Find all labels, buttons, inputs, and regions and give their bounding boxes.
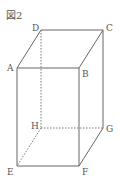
vertex-label-a: A xyxy=(6,63,14,73)
vertex-label-d: D xyxy=(32,23,39,33)
edge-da xyxy=(17,30,41,68)
vertex-label-f: F xyxy=(82,167,88,177)
vertex-label-c: C xyxy=(106,23,113,33)
vertex-label-e: E xyxy=(7,167,14,177)
vertex-label-h: H xyxy=(31,121,39,131)
edge-fg xyxy=(79,128,103,166)
cuboid-diagram: D C A B H G E F xyxy=(0,0,122,189)
edge-bc xyxy=(79,30,103,68)
hidden-edge-he xyxy=(17,128,41,166)
vertex-label-b: B xyxy=(82,69,89,79)
vertex-label-g: G xyxy=(106,124,113,134)
